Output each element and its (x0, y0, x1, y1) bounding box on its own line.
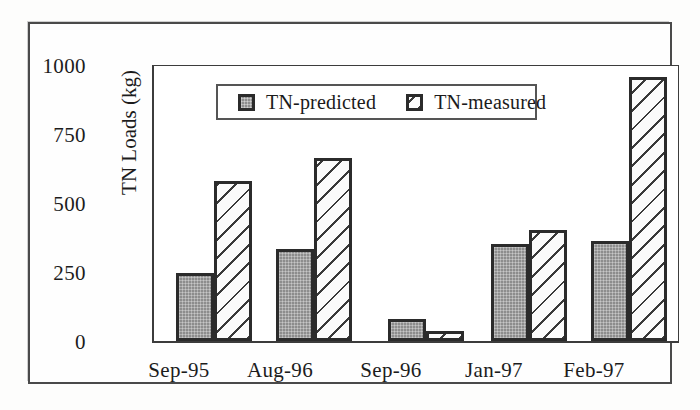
chart-legend: TN-predicted TN-measured (216, 84, 537, 120)
y-tick-label-500: 500 (16, 194, 86, 215)
bar-measured-jan-97 (529, 230, 567, 341)
y-tick-label-1000: 1000 (16, 56, 86, 77)
plot-area: TN-predicted TN-measured (152, 65, 679, 343)
y-tick-label-250: 250 (16, 263, 86, 284)
bar-predicted-aug-96 (276, 249, 314, 341)
bar-predicted-feb-97 (591, 241, 629, 341)
bar-measured-sep-95 (214, 181, 252, 341)
bar-measured-aug-96 (314, 158, 352, 341)
x-tick-label-feb-97: Feb-97 (529, 358, 659, 383)
bar-predicted-sep-96 (388, 319, 426, 341)
bar-predicted-sep-95 (176, 273, 214, 341)
y-tick-label-0: 0 (16, 332, 86, 353)
hatched-square-icon (406, 94, 423, 111)
bar-measured-sep-96 (426, 331, 464, 341)
figure-frame: TN Loads (kg) 1000 750 500 250 0 (28, 22, 672, 384)
y-axis-title: TN Loads (kg) (117, 28, 142, 238)
legend-entry-predicted: TN-predicted (238, 91, 376, 114)
legend-entry-measured: TN-measured (406, 91, 546, 114)
legend-label-measured: TN-measured (434, 91, 546, 114)
y-tick-label-750: 750 (16, 125, 86, 146)
bar-measured-feb-97 (629, 77, 667, 341)
solid-gray-square-icon (238, 94, 255, 111)
bar-predicted-jan-97 (491, 244, 529, 341)
legend-label-predicted: TN-predicted (266, 91, 376, 114)
chart-screenshot: TN Loads (kg) 1000 750 500 250 0 (0, 0, 700, 410)
